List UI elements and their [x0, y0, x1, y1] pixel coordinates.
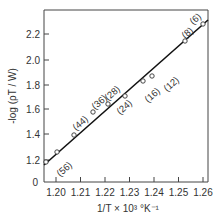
- x-tick-1.25: 1.25: [169, 187, 189, 198]
- point-labels: (56) (44) (36) (28) (24) (16) (12) (8) (…: [54, 11, 203, 179]
- y-tick-1.8: 1.8: [26, 80, 40, 91]
- data-point-16: [141, 79, 145, 83]
- data-point-44: [72, 133, 76, 137]
- x-tick-1.21: 1.21: [71, 187, 91, 198]
- x-tick-1.24: 1.24: [144, 187, 164, 198]
- data-point-56: [55, 150, 59, 154]
- y-tick-2.2: 2.2: [26, 29, 40, 40]
- x-axis-tick-labels: 1.20 1.21 1.22 1.23 1.24 1.25 1.26: [46, 187, 213, 198]
- y-tick-1.2: 1.2: [26, 155, 40, 166]
- data-point: [44, 160, 48, 164]
- y-axis-ticks: [44, 34, 49, 160]
- y-axis-tick-labels: 2.2 2.0 1.8 1.6 1.4 1.2 0: [26, 29, 40, 188]
- x-tick-1.23: 1.23: [120, 187, 140, 198]
- point-label-44: (44): [70, 113, 90, 132]
- x-tick-1.22: 1.22: [95, 187, 115, 198]
- point-label-16: (16): [142, 85, 162, 104]
- point-label-12: (12): [161, 74, 181, 93]
- y-tick-1.4: 1.4: [26, 129, 40, 140]
- x-tick-1.26: 1.26: [193, 187, 213, 198]
- y-axis-title: -log (ρT / W): [7, 68, 18, 124]
- y-tick-1.6: 1.6: [26, 104, 40, 115]
- point-label-56: (56): [54, 159, 74, 178]
- chart: 2.2 2.0 1.8 1.6 1.4 1.2 0 1.20 1.21 1.22…: [0, 0, 220, 222]
- y-tick-2.0: 2.0: [26, 55, 40, 66]
- x-axis-title: 1/T × 10³ °K⁻¹: [97, 203, 160, 214]
- x-tick-1.20: 1.20: [46, 187, 66, 198]
- point-label-8: (8): [179, 25, 195, 41]
- x-axis-ticks: [56, 177, 203, 182]
- data-point-12: [150, 74, 154, 78]
- data-point-6: [201, 22, 205, 26]
- y-axis-zero-label: 0: [32, 177, 38, 188]
